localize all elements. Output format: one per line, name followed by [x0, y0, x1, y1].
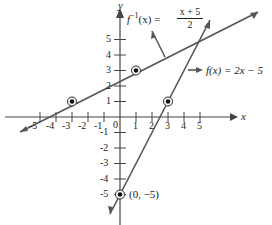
x-tick: 2 — [149, 121, 154, 131]
y-tick: 4 — [106, 50, 111, 60]
f-function-label: f(x) = 2x − 5 — [206, 65, 263, 76]
y-tick: 3 — [106, 65, 111, 75]
inverse-function-label: f−1(x) = — [127, 12, 160, 25]
x-tick: -3 — [62, 121, 70, 131]
numerator: x + 5 — [177, 7, 203, 19]
x-tick: -4 — [46, 121, 54, 131]
x-tick: -2 — [78, 121, 86, 131]
inverse-fraction: x + 5 2 — [177, 7, 203, 30]
y-tick: -4 — [100, 174, 108, 184]
y-tick: -3 — [100, 158, 108, 168]
x-axis-label: x — [241, 111, 246, 122]
inverse-sup: −1 — [130, 11, 139, 20]
y-tick: -5 — [100, 189, 108, 199]
y-tick: -2 — [100, 143, 108, 153]
x-tick: -5 — [29, 121, 37, 131]
x-tick: 1 — [133, 121, 138, 131]
x-tick: 3 — [165, 121, 170, 131]
x-arrow-icon — [230, 113, 238, 121]
denominator: 2 — [177, 19, 203, 30]
y-axis-label: y — [118, 0, 123, 11]
inverse-arg: (x) = — [139, 13, 161, 25]
origin-label: 0 — [113, 120, 118, 130]
x-tick: 5 — [197, 121, 202, 131]
y-tick: -1 — [100, 127, 108, 137]
point-label: (0, −5) — [129, 189, 159, 200]
y-tick: 5 — [106, 34, 111, 44]
y-tick: 2 — [106, 81, 111, 91]
y-tick: 1 — [106, 96, 111, 106]
x-tick: 4 — [181, 121, 186, 131]
